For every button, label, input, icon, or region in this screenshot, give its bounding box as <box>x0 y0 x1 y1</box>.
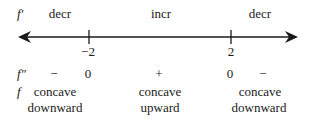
interval-2-concavity-direction: upward <box>141 101 180 114</box>
second-derivative-sign-3: − <box>259 67 266 80</box>
function-label: f <box>17 85 21 98</box>
sign-chart-diagram: f′ decr incr decr −2 2 f″ − 0 + 0 − f co… <box>0 0 311 130</box>
interval-3-concavity: concave <box>239 85 282 98</box>
interval-3-concavity-direction: downward <box>232 101 287 114</box>
second-derivative-zero-2: 0 <box>227 67 234 80</box>
interval-2-direction: incr <box>151 7 171 20</box>
interval-1-concavity: concave <box>34 85 77 98</box>
second-derivative-zero-1: 0 <box>85 67 92 80</box>
second-derivative-sign-2: + <box>155 67 162 80</box>
interval-1-direction: decr <box>49 7 71 20</box>
first-derivative-label: f′ <box>17 7 23 20</box>
second-derivative-label: f″ <box>17 67 26 80</box>
tick-label-pos2: 2 <box>228 45 235 58</box>
tick-label-neg2: −2 <box>81 45 95 58</box>
interval-3-direction: decr <box>249 7 271 20</box>
interval-2-concavity: concave <box>139 85 182 98</box>
second-derivative-sign-1: − <box>50 67 57 80</box>
interval-1-concavity-direction: downward <box>28 101 83 114</box>
